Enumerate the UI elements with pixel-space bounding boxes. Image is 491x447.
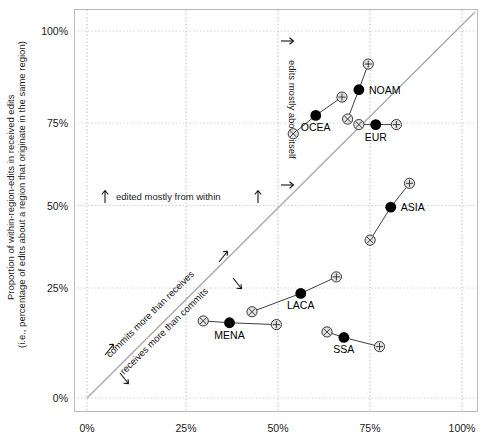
cross-marker-icon	[343, 114, 353, 124]
cross-marker-icon	[198, 316, 208, 326]
data-point-dot	[338, 332, 349, 343]
plus-marker-icon	[391, 119, 401, 129]
cross-marker-icon	[322, 327, 332, 337]
y-tick-0: 0%	[53, 392, 68, 404]
plus-marker-icon	[363, 59, 373, 69]
data-point-dot	[385, 202, 396, 213]
series-label-laca: LACA	[287, 299, 314, 311]
x-tick-75: 75%	[359, 422, 380, 434]
cross-marker-icon	[247, 307, 257, 317]
series-label-ocea: OCEA	[301, 121, 331, 133]
plus-marker-icon	[374, 342, 384, 352]
data-point-dot	[370, 119, 381, 130]
chart-canvas: 100% 75% 50% 25% 0% 0% 25% 50% 75% 100% …	[0, 0, 491, 447]
series-label-noam: NOAM	[369, 84, 401, 96]
plus-marker-icon	[331, 272, 341, 282]
x-tick-100: 100%	[449, 422, 476, 434]
y-axis-title-line2: (i.e., percentage of edits about a regio…	[16, 41, 27, 348]
y-tick-25: 25%	[47, 282, 68, 294]
y-tick-50: 50%	[47, 200, 68, 212]
x-tick-25: 25%	[175, 422, 196, 434]
plus-marker-icon	[337, 92, 347, 102]
series-label-asia: ASIA	[401, 201, 425, 213]
x-tick-0: 0%	[79, 422, 94, 434]
data-point-dot	[295, 288, 306, 299]
data-point-dot	[353, 84, 364, 95]
cross-marker-icon	[288, 129, 298, 139]
y-tick-100: 100%	[41, 25, 68, 37]
y-axis-title-line1: Proportion of within-region-edits in rec…	[5, 94, 16, 300]
cross-marker-icon	[365, 235, 375, 245]
series-label-ssa: SSA	[333, 343, 354, 355]
plus-marker-icon	[271, 320, 281, 330]
figure-background	[0, 0, 491, 447]
x-tick-50: 50%	[267, 422, 288, 434]
series-label-mena: MENA	[214, 329, 244, 341]
annotation-edited-from-within-label: edited mostly from within	[116, 191, 221, 202]
series-label-eur: EUR	[365, 131, 388, 143]
y-tick-75: 75%	[47, 117, 68, 129]
data-point-dot	[224, 317, 235, 328]
cross-marker-icon	[354, 119, 364, 129]
scatter-plot-figure: 100% 75% 50% 25% 0% 0% 25% 50% 75% 100% …	[0, 0, 491, 447]
annotation-edits-about-itself-label: edits mostly about itself	[287, 60, 298, 159]
plus-marker-icon	[404, 178, 414, 188]
data-point-dot	[310, 110, 321, 121]
